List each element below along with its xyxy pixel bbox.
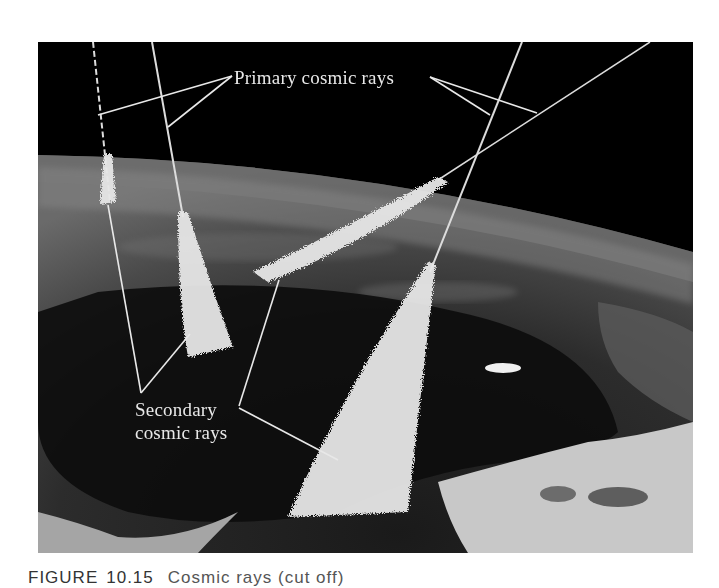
caption-number: 10.15: [106, 568, 154, 587]
caption-prefix: FIGURE: [28, 568, 98, 587]
secondary-cosmic-rays-label: Secondary cosmic rays: [135, 398, 227, 444]
secondary-label-line2: cosmic rays: [135, 421, 227, 444]
caption-text: Cosmic rays (cut off): [168, 568, 345, 587]
cosmic-ray-earth-photo: Primary cosmic rays Secondary cosmic ray…: [38, 42, 693, 553]
primary-cosmic-rays-label: Primary cosmic rays: [234, 66, 394, 89]
figure-caption: FIGURE10.15Cosmic rays (cut off): [28, 568, 344, 588]
secondary-label-line1: Secondary: [135, 398, 227, 421]
photo-illustration: [38, 42, 693, 553]
